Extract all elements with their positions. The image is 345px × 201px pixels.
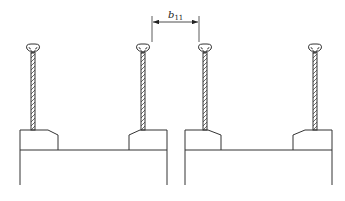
stud-3: [199, 44, 212, 130]
stud-1: [27, 44, 40, 130]
dimension-label: b11: [168, 9, 183, 22]
left-beam: [20, 130, 167, 185]
diagram-canvas: b11: [0, 0, 345, 201]
right-beam: [185, 130, 332, 185]
stud-2: [137, 44, 150, 130]
dimension-b11: b11: [152, 9, 199, 42]
stud-4: [309, 44, 322, 130]
